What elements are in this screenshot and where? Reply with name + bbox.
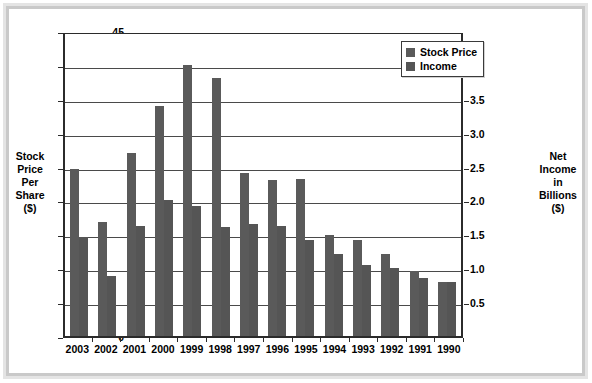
x-tick-label: 1998 bbox=[206, 341, 235, 359]
bar-group bbox=[206, 34, 234, 336]
y-tickmark-right bbox=[464, 169, 469, 170]
bar-stock-price bbox=[381, 254, 390, 336]
y-tickmark-left bbox=[58, 338, 63, 339]
y-tick-label-right: 2.5 bbox=[470, 163, 510, 174]
bar-group bbox=[122, 34, 150, 336]
x-tick-label: 1994 bbox=[320, 341, 349, 359]
bar-group bbox=[235, 34, 263, 336]
x-tick-label: 1995 bbox=[292, 341, 321, 359]
bar-group bbox=[178, 34, 206, 336]
x-tick-label: 1996 bbox=[263, 341, 292, 359]
bar-income bbox=[447, 282, 456, 336]
x-tick-label: 1990 bbox=[435, 341, 464, 359]
bar-stock-price bbox=[183, 65, 192, 336]
y-tick-label-right: 0.5 bbox=[470, 298, 510, 309]
bar-income bbox=[419, 278, 428, 336]
legend-swatch-income bbox=[406, 62, 415, 71]
bar-income bbox=[79, 237, 88, 336]
bar-group bbox=[263, 34, 291, 336]
x-tick-label: 1999 bbox=[177, 341, 206, 359]
y-tick-label-right: 2.0 bbox=[470, 196, 510, 207]
y-tick-label-right: 3.0 bbox=[470, 129, 510, 140]
bar-stock-price bbox=[268, 180, 277, 336]
y-tickmark-right bbox=[464, 202, 469, 203]
x-tick-label: 2002 bbox=[92, 341, 121, 359]
bar-stock-price bbox=[296, 179, 305, 336]
bar-group bbox=[150, 34, 178, 336]
bar-income bbox=[221, 227, 230, 336]
bar-stock-price bbox=[127, 153, 136, 336]
y-tickmark-right bbox=[464, 304, 469, 305]
legend-entry-stock-price: Stock Price bbox=[406, 45, 477, 59]
bar-group bbox=[348, 34, 376, 336]
legend-label-income: Income bbox=[420, 61, 457, 72]
x-tick-label: 2000 bbox=[149, 341, 178, 359]
legend-entry-income: Income bbox=[406, 59, 477, 73]
bar-group bbox=[291, 34, 319, 336]
y-tickmark-right bbox=[464, 135, 469, 136]
bar-stock-price bbox=[240, 173, 249, 336]
bar-income bbox=[390, 268, 399, 336]
chart-legend[interactable]: Stock Price Income bbox=[401, 41, 484, 77]
x-tick-label: 1993 bbox=[349, 341, 378, 359]
x-tick-label: 2003 bbox=[63, 341, 92, 359]
bar-group bbox=[433, 34, 461, 336]
bar-groups bbox=[65, 34, 461, 336]
bar-group bbox=[65, 34, 93, 336]
bar-income bbox=[107, 276, 116, 336]
x-tick-label: 1997 bbox=[234, 341, 263, 359]
legend-label-stock-price: Stock Price bbox=[420, 47, 477, 58]
y-axis-left-title: StockPricePerShare($) bbox=[4, 150, 56, 215]
bar-stock-price bbox=[410, 271, 419, 336]
y-tick-label-right: 3.5 bbox=[470, 95, 510, 106]
bar-income bbox=[362, 265, 371, 336]
bar-income bbox=[277, 226, 286, 336]
y-tick-label-right: 1.0 bbox=[470, 264, 510, 275]
legend-swatch-stock-price bbox=[406, 48, 415, 57]
y-tick-label-right: 1.5 bbox=[470, 230, 510, 241]
x-tick-label: 1991 bbox=[406, 341, 435, 359]
x-axis-labels: 2003200220012000199919981997199619951994… bbox=[63, 341, 463, 359]
chart-figure: StockPricePerShare($) NetIncomeinBillion… bbox=[0, 0, 592, 383]
x-tick-label: 1992 bbox=[377, 341, 406, 359]
bar-income bbox=[334, 254, 343, 336]
bar-group bbox=[320, 34, 348, 336]
bar-income bbox=[136, 226, 145, 336]
bar-stock-price bbox=[438, 282, 447, 336]
bar-stock-price bbox=[325, 235, 334, 336]
bar-income bbox=[249, 224, 258, 337]
y-tickmark-right bbox=[464, 270, 469, 271]
bar-group bbox=[376, 34, 404, 336]
x-tickmark bbox=[463, 338, 464, 342]
bar-stock-price bbox=[353, 240, 362, 336]
x-tick-label: 2001 bbox=[120, 341, 149, 359]
y-tickmark-right bbox=[464, 236, 469, 237]
bar-stock-price bbox=[155, 106, 164, 336]
bar-stock-price bbox=[70, 169, 79, 336]
bar-stock-price bbox=[212, 78, 221, 336]
bar-income bbox=[164, 200, 173, 336]
bar-stock-price bbox=[98, 222, 107, 336]
y-axis-right-title: NetIncomeinBillions($) bbox=[530, 150, 586, 215]
bar-group bbox=[93, 34, 121, 336]
y-tickmark-right bbox=[464, 101, 469, 102]
bar-income bbox=[192, 206, 201, 336]
bar-group bbox=[404, 34, 432, 336]
plot-area bbox=[63, 33, 463, 338]
bar-income bbox=[305, 240, 314, 336]
